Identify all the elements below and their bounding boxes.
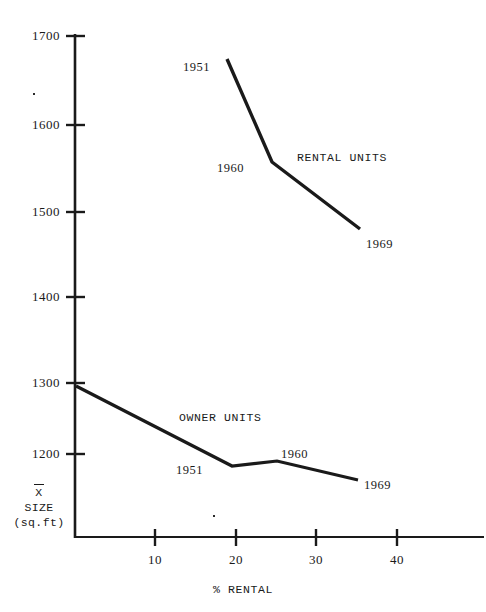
point-label-owner-1960: 1960	[281, 447, 308, 462]
point-label-rental-1960: 1960	[217, 161, 244, 176]
y-axis-title-symbol: X	[35, 485, 42, 500]
series-line-rental-units	[227, 59, 360, 229]
y-tick-label-1700: 1700	[2, 28, 60, 44]
x-tick-label-10: 10	[135, 552, 175, 568]
series-label-owner-units: OWNER UNITS	[179, 411, 262, 424]
y-axis-title: X SIZE (sq.ft)	[6, 485, 72, 530]
series-line-owner-units	[76, 386, 358, 480]
y-axis-title-symbol-row: X	[6, 485, 72, 500]
y-axis-title-unit: (sq.ft)	[6, 515, 72, 530]
y-tick-label-1400: 1400	[2, 289, 60, 305]
scan-speck	[33, 93, 35, 95]
x-tick-label-20: 20	[216, 552, 256, 568]
chart-plot-area	[0, 0, 486, 612]
y-tick-label-1200: 1200	[2, 446, 60, 462]
point-label-rental-1969: 1969	[366, 237, 393, 252]
x-tick-label-30: 30	[296, 552, 336, 568]
y-tick-label-1500: 1500	[2, 204, 60, 220]
y-axis-title-word: SIZE	[6, 500, 72, 515]
point-label-owner-1969: 1969	[364, 478, 391, 493]
point-label-owner-1951: 1951	[176, 463, 203, 478]
series-label-rental-units: RENTAL UNITS	[297, 151, 387, 164]
x-tick-label-40: 40	[377, 552, 417, 568]
x-axis-title: % RENTAL	[0, 583, 486, 596]
y-tick-label-1600: 1600	[2, 117, 60, 133]
point-label-rental-1951: 1951	[183, 60, 210, 75]
scan-speck	[213, 515, 215, 517]
y-tick-label-1300: 1300	[2, 375, 60, 391]
chart-canvas: 1700 1600 1500 1400 1300 1200 10 20 30 4…	[0, 0, 486, 612]
